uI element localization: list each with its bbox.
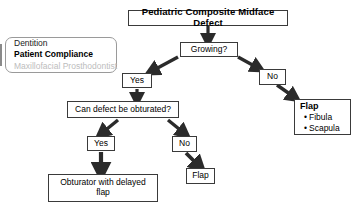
flap-options-item-0-label: Fibula xyxy=(309,112,332,122)
node-root[interactable]: Pediatric Composite Midface Defect xyxy=(128,10,288,26)
considerations-item-dentition: Dentition xyxy=(14,38,110,49)
flap-options-item-scapula: •Scapula xyxy=(300,123,345,134)
edge-growing-to-no xyxy=(238,57,258,68)
node-obturate-no[interactable]: No xyxy=(172,136,197,152)
node-obturate-yes[interactable]: Yes xyxy=(87,136,115,151)
node-root-label: Pediatric Composite Midface Defect xyxy=(129,7,287,29)
node-obturator-with-delayed-flap[interactable]: Obturator with delayed flap xyxy=(48,174,158,202)
flap-options-heading: Flap xyxy=(300,101,345,111)
node-growing-yes[interactable]: Yes xyxy=(122,73,152,88)
considerations-item-patient-compliance: Patient Compliance xyxy=(14,49,110,60)
node-obturate-no-label: No xyxy=(179,139,190,149)
node-flap-options[interactable]: Flap •Fibula •Scapula xyxy=(294,99,351,135)
edge-obturate-to-yes xyxy=(102,120,118,133)
node-growing-no[interactable]: No xyxy=(259,69,286,85)
considerations-item-maxillofacial-prosthodontist: Maxillofacial Prosthodontist xyxy=(14,61,110,72)
edge-no-to-flap xyxy=(186,153,199,166)
node-obturate-label: Can defect be obturated? xyxy=(75,105,171,115)
node-obturate-yes-label: Yes xyxy=(94,139,108,149)
bullet-icon: • xyxy=(304,112,307,122)
flap-options-item-1-label: Scapula xyxy=(309,123,340,133)
node-obturator-result-label: Obturator with delayed flap xyxy=(53,178,153,198)
edge-no-to-flap-options xyxy=(277,85,294,97)
edge-obturate-to-no xyxy=(168,120,184,133)
node-flap-result-label: Flap xyxy=(192,171,209,181)
considerations-panel[interactable]: Dentition Patient Compliance Maxillofaci… xyxy=(5,37,117,73)
node-growing-label: Growing? xyxy=(191,45,227,55)
node-flap-result[interactable]: Flap xyxy=(186,168,215,184)
edge-growing-to-yes xyxy=(152,57,178,71)
node-growing[interactable]: Growing? xyxy=(180,42,238,57)
info-panel-edge-tick xyxy=(0,44,2,66)
bullet-icon: • xyxy=(304,123,307,133)
flap-options-item-fibula: •Fibula xyxy=(300,112,345,123)
node-growing-yes-label: Yes xyxy=(130,76,144,86)
node-can-defect-be-obturated[interactable]: Can defect be obturated? xyxy=(67,101,179,118)
flowchart-diagram: Pediatric Composite Midface Defect Growi… xyxy=(0,0,353,208)
node-growing-no-label: No xyxy=(267,72,278,82)
